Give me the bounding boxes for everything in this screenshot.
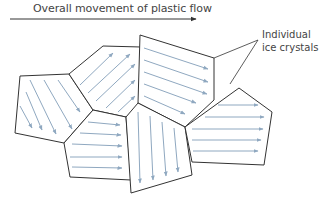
label-line-2: ice crystals [262,41,318,54]
flow-direction-title: Overall movement of plastic flow [33,2,212,15]
label-line-1: Individual [262,28,318,41]
ice-flow-diagram: Overall movement of plastic flow Individ… [0,0,328,206]
ice-crystals-label: Individual ice crystals [262,28,318,54]
label-leader-lines [214,40,258,84]
